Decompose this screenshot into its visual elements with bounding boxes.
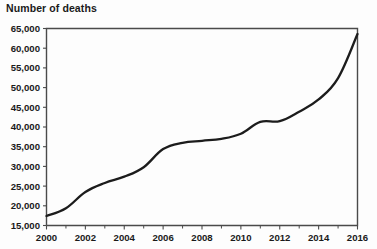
chart-container: Number of deaths 15,00020,00025,00030,00… [0, 0, 377, 249]
plot-frame [47, 29, 358, 226]
x-tick-label-2010: 2010 [230, 232, 251, 243]
line-chart-plot: 15,00020,00025,00030,00035,00040,00045,0… [0, 0, 377, 249]
y-tick-label-65000: 65,000 [11, 23, 40, 34]
x-tick-label-2016: 2016 [347, 232, 368, 243]
x-tick-label-2000: 2000 [36, 232, 57, 243]
data-series-group [47, 34, 358, 216]
y-tick-label-55000: 55,000 [11, 62, 40, 73]
x-tick-label-2006: 2006 [152, 232, 173, 243]
x-tick-label-2008: 2008 [191, 232, 213, 243]
series-line-0 [47, 34, 358, 216]
y-tick-label-20000: 20,000 [11, 200, 40, 211]
x-axis-labels: 200020022004200620082010201220142016 [36, 232, 368, 243]
x-tick-label-2014: 2014 [308, 232, 330, 243]
y-tick-label-50000: 50,000 [11, 82, 40, 93]
y-tick-label-25000: 25,000 [11, 181, 40, 192]
y-tick-label-40000: 40,000 [11, 121, 40, 132]
x-tick-label-2002: 2002 [75, 232, 96, 243]
y-tick-label-45000: 45,000 [11, 102, 40, 113]
y-tick-label-15000: 15,000 [11, 220, 40, 231]
x-tick-label-2004: 2004 [114, 232, 136, 243]
y-tick-label-35000: 35,000 [11, 141, 40, 152]
y-tick-label-30000: 30,000 [11, 161, 40, 172]
y-axis-labels: 15,00020,00025,00030,00035,00040,00045,0… [11, 23, 40, 231]
y-tick-label-60000: 60,000 [11, 43, 40, 54]
x-tick-label-2012: 2012 [269, 232, 290, 243]
